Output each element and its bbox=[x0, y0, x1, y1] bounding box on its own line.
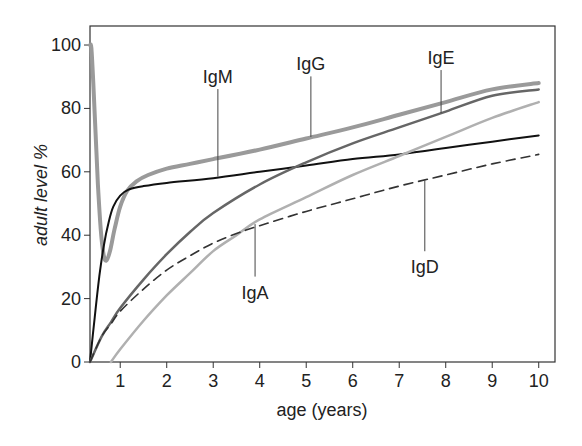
x-tick-label: 10 bbox=[529, 371, 549, 391]
series-label-ige: IgE bbox=[428, 48, 455, 68]
x-tick-label: 3 bbox=[208, 371, 218, 391]
series-label-igm: IgM bbox=[203, 67, 233, 87]
y-axis-title: adult level % bbox=[31, 144, 51, 246]
x-tick-label: 7 bbox=[394, 371, 404, 391]
x-tick-label: 9 bbox=[487, 371, 497, 391]
x-tick-label: 2 bbox=[162, 371, 172, 391]
y-tick-label: 40 bbox=[61, 225, 81, 245]
immunoglobulin-chart: 12345678910 020406080100 IgMIgGIgEIgAIgD… bbox=[0, 0, 582, 446]
x-tick-label: 8 bbox=[441, 371, 451, 391]
series-label-igg: IgG bbox=[296, 54, 325, 74]
x-tick-label: 6 bbox=[348, 371, 358, 391]
plot-border bbox=[90, 26, 555, 362]
series-line-igg bbox=[90, 44, 539, 260]
x-tick-label: 1 bbox=[115, 371, 125, 391]
y-tick-label: 20 bbox=[61, 289, 81, 309]
series-label-iga: IgA bbox=[242, 283, 269, 303]
plot-frame bbox=[90, 26, 555, 362]
series-layer bbox=[90, 44, 539, 362]
y-tick-label: 60 bbox=[61, 162, 81, 182]
y-tick-label: 80 bbox=[61, 98, 81, 118]
chart-canvas: 12345678910 020406080100 IgMIgGIgEIgAIgD… bbox=[0, 0, 582, 446]
series-line-ige bbox=[90, 89, 539, 362]
series-label-igd: IgD bbox=[411, 257, 439, 277]
x-tick-label: 4 bbox=[255, 371, 265, 391]
series-line-igd bbox=[90, 154, 539, 362]
x-axis: 12345678910 bbox=[115, 362, 549, 391]
y-tick-label: 0 bbox=[71, 352, 81, 372]
series-line-iga bbox=[111, 102, 539, 362]
y-tick-label: 100 bbox=[51, 35, 81, 55]
x-axis-title: age (years) bbox=[276, 400, 367, 420]
x-tick-label: 5 bbox=[301, 371, 311, 391]
y-axis: 020406080100 bbox=[51, 35, 90, 372]
